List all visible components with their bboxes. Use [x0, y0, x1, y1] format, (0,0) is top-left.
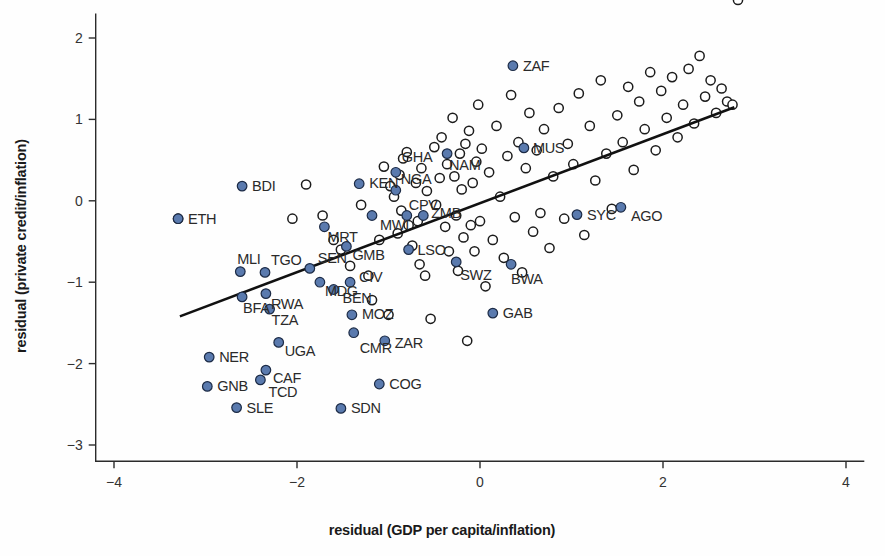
point-label-tcd: TCD	[268, 384, 297, 400]
data-point-open	[435, 173, 444, 182]
data-point-open	[596, 76, 605, 85]
point-label-nga: NGA	[401, 171, 432, 187]
data-point-open	[448, 113, 457, 122]
data-point-tcd	[256, 375, 266, 385]
x-tick-label: 4	[842, 474, 850, 490]
data-point-open	[288, 214, 297, 223]
point-label-mus: MUS	[533, 140, 564, 156]
data-point-open	[503, 151, 512, 160]
data-point-open	[421, 271, 430, 280]
data-point-open	[580, 230, 589, 239]
point-label-mwi: MWI	[380, 217, 409, 233]
data-point-open	[488, 235, 497, 244]
data-point-eth	[173, 214, 183, 224]
data-point-ner	[204, 352, 214, 362]
axes	[89, 14, 865, 469]
scatter-plot-figure: ETHBDIMLITGOBFARWATZANERUGACAFGNBTCDSLES…	[0, 0, 885, 556]
data-point-zaf	[508, 61, 518, 71]
data-point-open	[536, 208, 545, 217]
data-point-open	[668, 73, 677, 82]
point-label-mrt: MRT	[327, 229, 358, 245]
point-label-zmb: ZMB	[431, 205, 461, 221]
data-point-open	[613, 111, 622, 120]
point-label-ago: AGO	[631, 208, 662, 224]
y-tick-label: 2	[75, 30, 83, 46]
point-label-bdi: BDI	[252, 178, 275, 194]
point-label-bfa: BFA	[243, 300, 270, 316]
data-point-tgo	[260, 268, 270, 278]
point-label-lso: LSO	[418, 242, 446, 258]
y-tick-label: −1	[67, 274, 83, 290]
data-point-open	[733, 0, 742, 5]
data-point-open	[415, 260, 424, 269]
data-point-bwa	[506, 260, 516, 270]
data-point-open	[624, 82, 633, 91]
data-point-open	[673, 133, 682, 142]
x-tick-label: 0	[476, 474, 484, 490]
point-label-ken: KEN	[369, 175, 398, 191]
point-label-moz: MOZ	[362, 306, 394, 322]
data-point-moz	[347, 310, 357, 320]
point-label-eth: ETH	[188, 211, 216, 227]
data-point-open	[510, 213, 519, 222]
point-label-cog: COG	[389, 376, 421, 392]
data-point-open	[466, 221, 475, 230]
point-label-zaf: ZAF	[523, 58, 550, 74]
data-point-open	[464, 126, 473, 135]
point-label-civ: CIV	[359, 269, 383, 285]
data-point-open	[651, 146, 660, 155]
data-point-open	[635, 97, 644, 106]
data-point-open	[475, 217, 484, 226]
point-label-tgo: TGO	[271, 252, 302, 268]
data-point-rwa	[261, 289, 271, 299]
data-point-open	[695, 51, 704, 60]
data-point-open	[657, 86, 666, 95]
point-label-ben: BEN	[343, 290, 372, 306]
data-point-open	[574, 89, 583, 98]
data-point-open	[492, 121, 501, 130]
x-tick-label: −4	[106, 474, 122, 490]
data-point-open	[441, 222, 450, 231]
data-point-open	[461, 139, 470, 148]
data-point-gnb	[203, 382, 213, 392]
data-point-open	[481, 282, 490, 291]
point-label-tza: TZA	[272, 312, 299, 328]
data-point-open	[554, 103, 563, 112]
data-point-bdi	[237, 181, 247, 191]
data-point-open	[437, 133, 446, 142]
plot-canvas: ETHBDIMLITGOBFARWATZANERUGACAFGNBTCDSLES…	[0, 0, 885, 556]
point-label-nam: NAM	[449, 157, 480, 173]
data-point-open	[525, 108, 534, 117]
data-point-sdn	[336, 404, 346, 414]
point-label-gab: GAB	[503, 305, 533, 321]
data-point-open	[679, 100, 688, 109]
point-label-gha: GHA	[402, 149, 433, 165]
data-point-ken	[354, 179, 364, 189]
point-label-cmr: CMR	[360, 340, 392, 356]
y-tick-label: −3	[67, 437, 83, 453]
data-point-open	[468, 178, 477, 187]
axis-spines	[96, 14, 865, 462]
data-point-sle	[232, 403, 242, 413]
point-label-gmb: GMB	[352, 247, 384, 263]
data-point-open	[717, 84, 726, 93]
data-point-open	[545, 243, 554, 252]
x-tick-label: −2	[289, 474, 305, 490]
data-point-open	[450, 172, 459, 181]
data-point-open	[379, 162, 388, 171]
y-tick-label: 1	[75, 111, 83, 127]
data-point-open	[521, 164, 530, 173]
x-axis-title: residual (GDP per capita/inflation)	[329, 522, 556, 538]
data-point-open	[459, 233, 468, 242]
data-point-mwi	[367, 211, 377, 221]
y-tick-label: 0	[75, 193, 83, 209]
point-label-rwa: RWA	[271, 296, 304, 312]
data-point-open	[585, 121, 594, 130]
data-point-open	[560, 214, 569, 223]
data-point-mli	[236, 267, 246, 277]
y-axis-title: residual (private credit/inflation)	[13, 139, 29, 353]
data-point-ago	[616, 203, 626, 213]
data-point-open	[684, 64, 693, 73]
data-point-open	[646, 68, 655, 77]
data-point-open	[629, 165, 638, 174]
